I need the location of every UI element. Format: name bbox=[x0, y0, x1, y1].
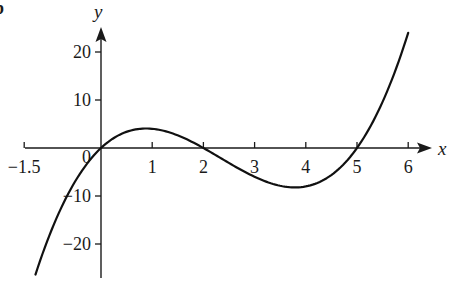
y-axis-label: y bbox=[92, 1, 103, 22]
cubic-graph: b x −1.5123456 y 2010−10−20 0 bbox=[0, 0, 460, 284]
x-axis-label: x bbox=[437, 138, 447, 159]
x-axis: x −1.5123456 bbox=[8, 138, 447, 177]
x-tick-label: 6 bbox=[404, 157, 413, 177]
x-ticks: −1.5123456 bbox=[8, 142, 413, 177]
x-tick-label: 4 bbox=[301, 157, 310, 177]
x-tick-label: 3 bbox=[250, 157, 259, 177]
part-label: b bbox=[0, 0, 4, 18]
x-tick-label: 5 bbox=[353, 157, 362, 177]
y-tick-label: −20 bbox=[63, 234, 91, 254]
x-tick-label: 2 bbox=[199, 157, 208, 177]
x-tick-label: −1.5 bbox=[8, 157, 41, 177]
y-axis: y 2010−10−20 bbox=[63, 1, 107, 278]
x-tick-label: 1 bbox=[148, 157, 157, 177]
y-tick-label: 20 bbox=[73, 42, 91, 62]
y-tick-label: 10 bbox=[73, 90, 91, 110]
cubic-curve bbox=[35, 33, 408, 275]
